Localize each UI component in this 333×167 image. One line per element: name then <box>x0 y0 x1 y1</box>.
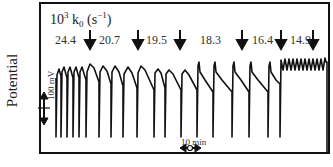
arrow-icon <box>237 30 247 49</box>
header-unit-exponent: −1 <box>97 10 107 20</box>
arrow-icon <box>276 30 286 49</box>
header-base: 10 <box>50 12 64 27</box>
header-k: k <box>69 12 80 27</box>
arrow-icon <box>85 30 95 49</box>
y-axis-label: Potential <box>4 51 21 111</box>
rate-constant-header: 103 k0 (s−1) <box>50 10 111 29</box>
header-close: ) <box>107 12 112 27</box>
k-value-label: 14.9 <box>290 33 311 48</box>
k-value-label: 19.5 <box>146 33 167 48</box>
k-value-label: 24.4 <box>55 33 76 48</box>
arrow-icon <box>175 30 185 49</box>
scale-label-10min: 10 min <box>181 137 206 147</box>
arrow-icon <box>133 30 143 49</box>
k-value-label: 16.4 <box>252 33 273 48</box>
scale-label-100mv: 100 mV <box>46 71 56 100</box>
k-value-label: 18.3 <box>200 33 221 48</box>
header-unit: (s <box>84 12 98 27</box>
k-value-label: 20.7 <box>99 33 120 48</box>
